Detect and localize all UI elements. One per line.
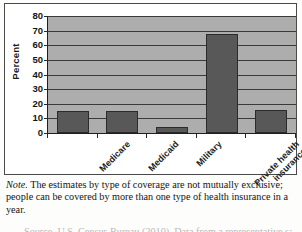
- figure-page: Percent 80706050403020100 MedicareMedica…: [0, 0, 302, 232]
- y-axis-tick-label: 70: [21, 26, 43, 35]
- y-axis-tick-mark: [44, 16, 48, 17]
- note-label: Note.: [6, 179, 28, 190]
- x-axis-category-label-line: Military: [194, 139, 223, 168]
- x-axis-origin-tick: [47, 134, 48, 138]
- y-axis-tick-mark: [44, 118, 48, 119]
- gridline: [48, 89, 296, 90]
- y-axis-tick-label: 80: [21, 11, 43, 20]
- x-axis-tick-mark: [245, 134, 246, 138]
- y-axis-tick-mark: [44, 31, 48, 32]
- x-axis-category-label-line: Medicare: [97, 139, 132, 174]
- bar: [106, 111, 138, 133]
- plot-top-edge: [48, 16, 296, 17]
- gridline: [48, 45, 296, 46]
- y-axis-tick-label: 0: [21, 128, 43, 137]
- y-axis-tick-labels: 80706050403020100: [21, 10, 43, 134]
- x-axis-tick-mark: [97, 134, 98, 138]
- x-axis-category-label-line: Medicaid: [147, 139, 181, 173]
- gridline: [48, 60, 296, 61]
- clipped-source-line: Source. U.S. Census Bureau (2010). Data …: [24, 226, 292, 232]
- x-axis-category-label: Medicaid: [147, 139, 181, 173]
- y-axis-tick-mark: [44, 89, 48, 90]
- y-axis-tick-mark: [44, 75, 48, 76]
- y-axis-tick-label: 40: [21, 70, 43, 79]
- bar: [255, 110, 287, 133]
- x-axis-category-label: Medicare: [97, 139, 132, 174]
- y-axis-tick-label: 60: [21, 40, 43, 49]
- bar: [156, 127, 188, 133]
- gridline: [48, 31, 296, 32]
- bar: [206, 34, 238, 133]
- gridline: [48, 104, 296, 105]
- plot-area: [47, 16, 296, 134]
- x-axis-tick-mark: [146, 134, 147, 138]
- y-axis-tick-mark: [44, 104, 48, 105]
- y-axis-tick-mark: [44, 45, 48, 46]
- note-text: The estimates by type of coverage are no…: [6, 179, 288, 215]
- figure-frame: Percent 80706050403020100 MedicareMedica…: [4, 3, 297, 175]
- y-axis-tick-label: 30: [21, 84, 43, 93]
- y-axis-title: Percent: [10, 32, 21, 92]
- y-axis-tick-label: 10: [21, 113, 43, 122]
- x-axis-tick-mark: [196, 134, 197, 138]
- gridline: [48, 75, 296, 76]
- x-axis-tick-mark: [295, 134, 296, 138]
- y-axis-tick-mark: [44, 60, 48, 61]
- y-axis-tick-label: 50: [21, 55, 43, 64]
- y-axis-tick-label: 20: [21, 99, 43, 108]
- x-axis-category-label: Military: [194, 139, 223, 168]
- bar-chart: Percent 80706050403020100 MedicareMedica…: [5, 4, 296, 174]
- figure-note: Note. The estimates by type of coverage …: [6, 179, 298, 216]
- bar: [57, 111, 89, 133]
